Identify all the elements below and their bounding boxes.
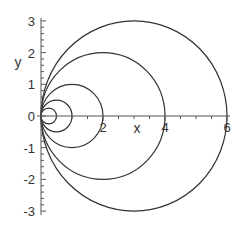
x-tick-label: 4 [161, 120, 168, 135]
x-tick-label: 2 [99, 120, 106, 135]
y-tick-label: 0 [28, 109, 35, 124]
y-tick-label: -1 [23, 141, 35, 156]
y-axis-label: y [15, 54, 22, 70]
y-tick-label: -3 [23, 204, 35, 219]
axes: 246-3-2-10123 [23, 14, 230, 219]
y-tick-label: 1 [28, 77, 35, 92]
x-axis-label: x [134, 120, 141, 136]
y-tick-label: 2 [28, 46, 35, 61]
y-tick-label: 3 [28, 14, 35, 29]
chart-plot: 246-3-2-10123 x y [0, 0, 244, 230]
y-tick-label: -2 [23, 172, 35, 187]
x-tick-label: 6 [223, 120, 230, 135]
